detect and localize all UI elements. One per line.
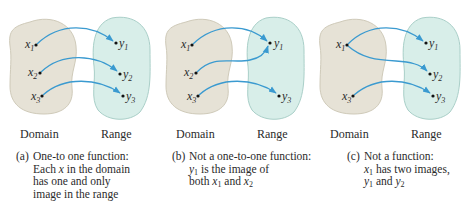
range-label: Range: [411, 127, 442, 141]
caption-line: Not a function:: [364, 150, 450, 163]
point-y1: [424, 41, 427, 44]
caption-line: y1 is the image of: [189, 163, 311, 176]
domain-label: Domain: [20, 127, 59, 141]
domain-set-shape: [320, 19, 387, 114]
point-x3: [351, 94, 354, 97]
point-x3: [40, 94, 43, 97]
point-x1: [34, 43, 37, 46]
caption-line: Each x in the domain: [33, 163, 130, 176]
point-x1: [345, 43, 348, 46]
domain-set-shape: [166, 19, 233, 114]
caption-tag: (c): [347, 150, 360, 163]
point-y3: [277, 94, 280, 97]
range-label: Range: [257, 127, 288, 141]
caption-tag: (a): [16, 150, 29, 163]
point-y1: [114, 41, 117, 44]
caption-line: both x1 and x2: [189, 175, 311, 188]
caption-tag: (b): [172, 150, 185, 163]
caption-line: image in the range: [33, 188, 130, 201]
caption-line: Not a one-to-one function:: [189, 150, 311, 163]
caption-line: y1 and y2: [364, 175, 450, 188]
range-label: Range: [101, 127, 132, 141]
point-y3: [121, 94, 124, 97]
range-set-shape: [93, 17, 150, 119]
panel-a: x1 x2 x3 y1 y2 y3 Domain Range: [10, 17, 150, 141]
panel-b: x1 x2 x3 y1 y3 Domain Range: [166, 17, 304, 141]
panel-c: x1 x3 y1 y2 y3 Domain Range: [320, 17, 460, 141]
point-x3: [196, 94, 199, 97]
point-y2: [428, 72, 431, 75]
domain-label: Domain: [176, 127, 215, 141]
range-set-shape: [403, 17, 460, 119]
point-x1: [190, 43, 193, 46]
caption-line: One-to one function:: [33, 150, 130, 163]
point-x2: [194, 71, 197, 74]
point-x2: [38, 71, 41, 74]
domain-set-shape: [10, 19, 77, 114]
caption-line: x1 has two images,: [364, 163, 450, 176]
caption-line: has one and only: [33, 175, 130, 188]
domain-label: Domain: [330, 127, 369, 141]
point-y3: [431, 94, 434, 97]
point-y1: [268, 41, 271, 44]
point-y2: [118, 72, 121, 75]
